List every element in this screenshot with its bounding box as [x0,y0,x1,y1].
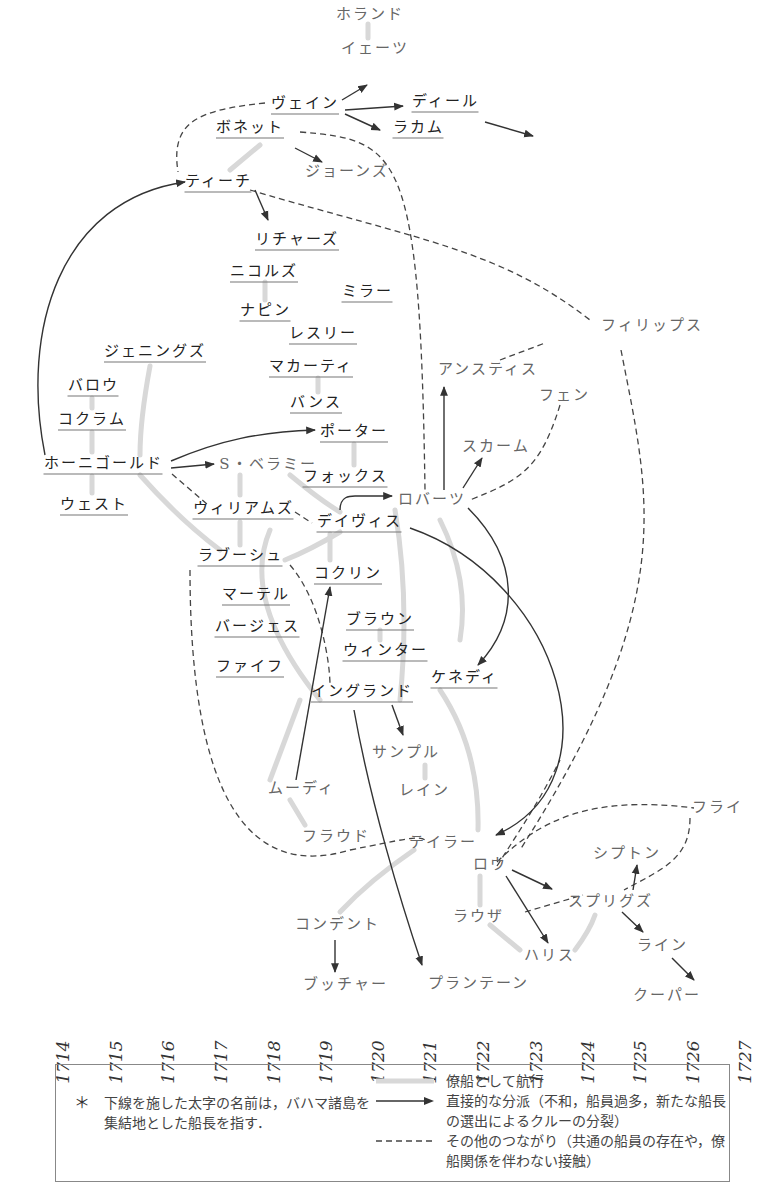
captain-kennedy: ケネディ [431,668,498,689]
legend-keys: 僚船として航行 直接的な分派（不和，船員過多，新たな船長の選出によるクルーの分裂… [374,1071,724,1171]
captain-jennings: ジェニングズ [104,342,206,363]
schism-arrow [506,876,548,943]
captain-condent: コンデント [295,915,380,933]
captain-macarty: マカーティ [269,357,353,378]
schism-arrow [295,148,322,162]
captain-fenn: フェン [539,386,590,404]
consort-line [290,800,305,825]
captain-moody: ムーディ [268,779,335,797]
captain-barrow: バロウ [68,376,119,397]
consort-line [440,690,478,830]
captain-fife: ファイフ [216,657,284,678]
captain-bunce: バンス [290,393,342,414]
captain-burgess: バージェス [215,617,300,638]
schism-arrow [255,190,268,220]
captain-deal: ディール [412,92,479,113]
legend-box: ＊ 下線を施した太字の名前は，バハマ諸島を集結地とした船長を指す． 僚船として航… [55,1064,730,1182]
schism-arrow [622,912,643,932]
captain-low: ロウ [473,855,507,873]
consort-line-icon [374,1071,436,1091]
captain-sample: サンプル [372,743,440,761]
captain-cocklyn_c: コクラム [58,410,126,431]
captain-scarm: スカーム [462,437,530,455]
legend-schism-label: 直接的な分派（不和，船員過多，新たな船長の選出によるクルーの分裂） [446,1091,726,1131]
schism-arrow [463,458,482,488]
schism-arrow [340,496,392,510]
captain-plantain: プランテーン [428,974,529,992]
captain-fox: フォックス [303,467,388,488]
captain-butcher: ブッチャー [303,975,388,993]
consort-line [395,510,404,700]
captain-vane: ヴェイン [271,94,339,115]
captain-cocklyn: コクリン [314,564,382,585]
legend-consort-label: 僚船として航行 [446,1071,544,1091]
captain-lane: レイン [399,781,450,799]
legend-key-consort: 僚船として航行 [374,1071,724,1091]
captain-taylor: テイラー [409,833,477,851]
captain-lyne: ライン [637,936,688,954]
captain-jones: ジョーンズ [305,162,389,180]
captain-williams: ウィリアムズ [193,499,294,520]
legend-key-schism: 直接的な分派（不和，船員過多，新たな船長の選出によるクルーの分裂） [374,1091,724,1131]
captain-frowd: フラウド [302,827,370,845]
captain-england: イングランド [311,682,413,703]
schism-arrow [345,106,403,110]
consort-line [490,925,520,950]
captain-bonnet: ボネット [216,118,284,139]
legend-note: ＊ 下線を施した太字の名前は，バハマ諸島を集結地とした船長を指す． [74,1093,374,1133]
schism-arrow [342,85,367,100]
captain-teach: ティーチ [185,172,252,193]
captain-leslie: レスリー [289,324,357,345]
consort-line [270,700,300,780]
captain-martel: マーテル [222,585,290,606]
captain-davis: デイヴィス [317,512,402,533]
schism-arrow [468,508,508,665]
dashed-line-icon [374,1131,436,1151]
other-connection-line [295,512,312,523]
asterisk-icon: ＊ [74,1093,90,1113]
consort-line [230,145,260,170]
legend-other-label: その他のつながり（共通の船員の存在や，僚船関係を伴わない接触） [446,1131,726,1171]
captain-yeats: イェーツ [341,39,409,57]
year-tick: 1727 [735,1032,755,1092]
captain-harris: ハリス [524,946,575,964]
pirate-network-diagram: ホランドイェーツヴェインディールラカムボネットジョーンズティーチリチャーズニコル… [0,0,765,1030]
schism-arrow [672,958,694,980]
legend-key-other: その他のつながり（共通の船員の存在や，僚船関係を伴わない接触） [374,1131,724,1171]
captain-west: ウェスト [60,495,128,516]
captain-phillips: フィリップス [601,316,703,334]
captain-porter: ポーター [320,422,388,443]
captain-nichols: ニコルズ [230,262,298,283]
captain-hornigold: ホーニゴールド [44,454,163,475]
schism-arrow [485,122,533,136]
captain-brown: ブラウン [346,610,414,631]
captain-napin: ナピン [240,301,291,322]
arrow-right-icon [374,1091,436,1111]
schism-arrow [345,114,380,130]
captain-fly: フライ [692,798,743,816]
schism-arrow [171,464,214,468]
schism-arrow [512,870,552,889]
legend-note-text: 下線を施した太字の名前は，バハマ諸島を集結地とした船長を指す． [104,1093,374,1133]
captain-labouche: ラブーシュ [198,546,283,567]
captain-miller: ミラー [342,282,393,303]
captain-lowther: ラウザ [453,907,504,925]
schism-arrow [392,705,403,735]
captain-cooper: クーパー [633,986,701,1004]
consort-line [340,850,414,912]
other-connection-line [500,343,545,360]
captain-richards: リチャーズ [255,230,339,251]
captain-anstis: アンスティス [438,360,538,378]
captain-shipton: シプトン [593,844,661,862]
consort-line [575,915,595,950]
other-connection-line [250,190,590,320]
captain-rackam: ラカム [393,118,444,139]
other-connection-line [520,350,644,850]
captain-roberts: ロバーツ [398,490,466,508]
year-label: 1727 [735,1040,755,1083]
schism-arrow [633,865,637,890]
consort-line [440,520,463,640]
captain-winter: ウィンター [343,641,428,662]
consort-line [140,366,150,455]
captain-holland: ホランド [336,5,404,23]
